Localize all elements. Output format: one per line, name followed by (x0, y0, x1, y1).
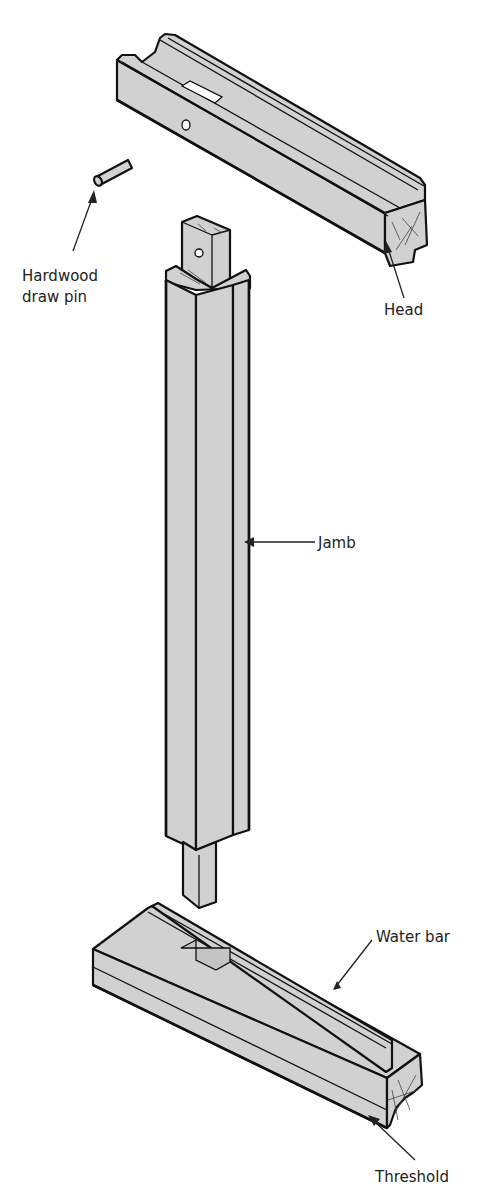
water-bar-label: Water bar (376, 928, 451, 946)
jamb-part (166, 216, 250, 908)
label-water-bar: Water bar (333, 928, 451, 990)
jamb-label: Jamb (317, 534, 356, 552)
door-frame-exploded-diagram: Hardwood draw pin Head Jamb Water bar Th… (0, 0, 497, 1199)
draw-pin-label-line1: Hardwood (22, 267, 98, 285)
draw-pin-label-line2: draw pin (22, 288, 87, 306)
head-part (117, 34, 427, 266)
draw-pin-part (93, 160, 132, 187)
threshold-part (93, 903, 422, 1128)
label-jamb: Jamb (244, 534, 356, 552)
label-draw-pin: Hardwood draw pin (22, 190, 98, 306)
head-label: Head (384, 301, 423, 319)
threshold-label: Threshold (374, 1168, 449, 1186)
